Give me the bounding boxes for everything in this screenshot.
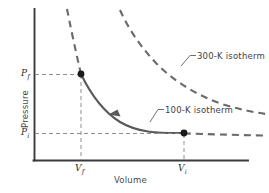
isotherm-300k-curve	[120, 10, 266, 114]
final-state-dot	[78, 71, 85, 78]
isotherm-100k-upper-extension	[67, 9, 81, 74]
pressure-final-tick-label: Pf	[21, 68, 30, 81]
isotherm-100k-solid-path	[81, 74, 184, 133]
guide-lines-group	[35, 75, 184, 161]
pressure-initial-tick-label: Pi	[21, 127, 30, 140]
leader-line-300k	[181, 56, 196, 67]
y-axis-title: Pressure	[20, 90, 30, 128]
leader-line-100k	[150, 110, 164, 123]
volume-initial-tick-label: Vi	[178, 163, 187, 176]
isotherm-300k-label: 300-K isotherm	[197, 51, 265, 61]
state-markers-group	[78, 71, 188, 137]
axes-group	[34, 9, 249, 161]
x-axis-title: Volume	[114, 175, 147, 185]
volume-final-tick-label: Vf	[75, 163, 84, 176]
isotherm-100k-label: 100-K isotherm	[165, 105, 233, 115]
pv-diagram-figure: Pressure Volume Pf Pi Vf Vi 300-K isothe…	[0, 0, 269, 193]
isotherm-100k-right-extension	[184, 134, 264, 136]
pv-diagram-canvas	[0, 0, 269, 193]
initial-state-dot	[181, 130, 188, 137]
